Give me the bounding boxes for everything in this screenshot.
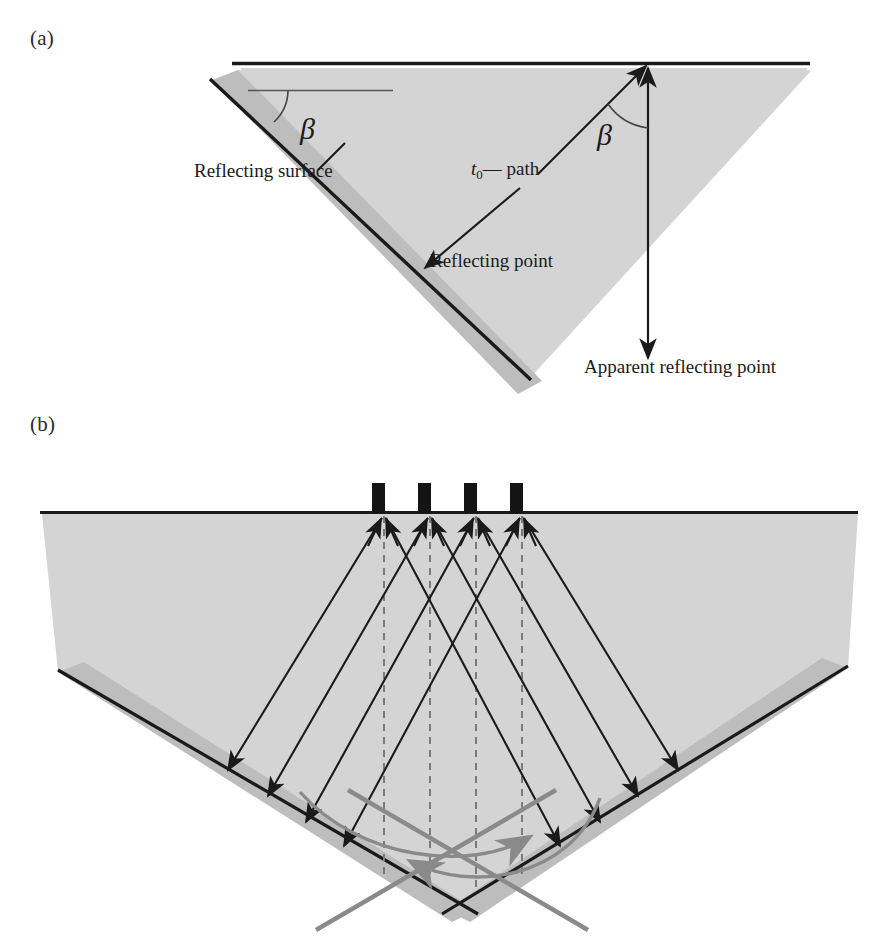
receiver-box-4[interactable] bbox=[510, 483, 523, 513]
panel-b-shaded-body bbox=[42, 514, 858, 900]
panel-b-receivers bbox=[372, 483, 523, 513]
reflecting-point-label: Reflecting point bbox=[430, 250, 553, 272]
t0-path-label: t0— path bbox=[471, 158, 539, 183]
receiver-box-1[interactable] bbox=[372, 483, 385, 513]
receiver-box-2[interactable] bbox=[418, 483, 431, 513]
angle-beta-left-label: β bbox=[300, 112, 315, 146]
panel-a-shaded-wedge-fill bbox=[240, 68, 808, 376]
angle-beta-right-label: β bbox=[597, 118, 612, 152]
receiver-box-3[interactable] bbox=[464, 483, 477, 513]
reflecting-surface-label: Reflecting surface bbox=[194, 160, 333, 182]
t0-path-suffix: — path bbox=[483, 158, 539, 179]
seismic-reflection-figure bbox=[0, 0, 885, 941]
panel-label-b: (b) bbox=[30, 412, 55, 437]
panel-label-a: (a) bbox=[30, 26, 54, 51]
panel-b-group bbox=[40, 483, 858, 930]
apparent-reflecting-point-label: Apparent reflecting point bbox=[584, 356, 776, 378]
